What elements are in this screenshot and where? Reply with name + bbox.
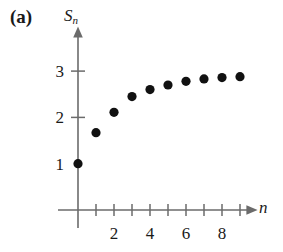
data-point bbox=[91, 128, 100, 137]
axes-group bbox=[58, 36, 248, 228]
y-axis-tick-labels: 123 bbox=[56, 62, 65, 174]
data-point bbox=[109, 108, 118, 117]
figure-panel-a: (a) Sn n 2468 123 bbox=[0, 0, 283, 252]
x-axis-tick-label: 4 bbox=[146, 224, 155, 243]
data-point bbox=[217, 73, 226, 82]
y-axis-tick-label: 3 bbox=[56, 62, 65, 81]
data-point bbox=[145, 85, 154, 94]
scatter-plot: 2468 123 bbox=[0, 0, 283, 252]
x-axis-tick-label: 2 bbox=[110, 224, 119, 243]
y-axis-tick-label: 2 bbox=[56, 108, 65, 127]
data-point bbox=[127, 92, 136, 101]
x-axis-tick-label: 8 bbox=[218, 224, 227, 243]
data-point bbox=[181, 77, 190, 86]
data-point bbox=[199, 74, 208, 83]
data-point-group bbox=[73, 72, 244, 168]
data-point bbox=[163, 80, 172, 89]
x-axis-tick-labels: 2468 bbox=[110, 224, 227, 243]
x-axis-tick-label: 6 bbox=[182, 224, 191, 243]
y-axis-tick-label: 1 bbox=[56, 155, 65, 174]
data-point bbox=[73, 159, 82, 168]
data-point bbox=[235, 72, 244, 81]
